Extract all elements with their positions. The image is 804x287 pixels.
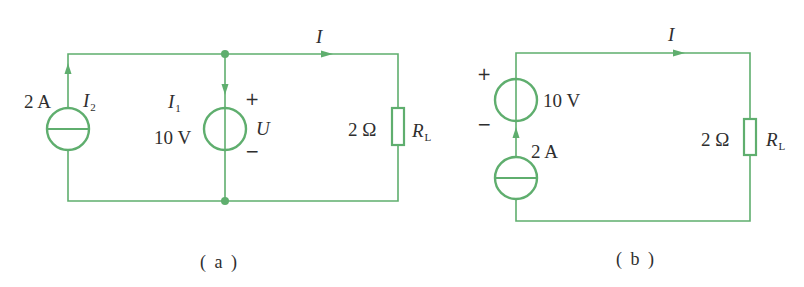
circuit-b-voltage-source-value: 10 V (543, 91, 580, 110)
circuit-b-current-source-value: 2 A (531, 142, 558, 161)
circuit-a-voltage-source-value: 10 V (154, 128, 191, 147)
circuit-a-top-wire (68, 54, 398, 108)
circuit-b-plus-sign: + (477, 66, 491, 83)
rl-symbol: R (766, 129, 778, 150)
i2-symbol: I (83, 90, 89, 111)
node-dot-icon (221, 197, 229, 205)
circuit-diagrams (0, 0, 804, 287)
circuit-b-bottom-wire (516, 155, 750, 221)
arrow-up-icon (65, 63, 72, 74)
i2-subscript: 2 (90, 101, 96, 113)
rl-subscript: L (425, 131, 432, 143)
circuit-a-current-label: I (316, 27, 322, 46)
circuit-b-resistor-value: 2 Ω (701, 130, 729, 149)
circuit-b-current-label: I (668, 25, 674, 44)
node-dot-icon (221, 50, 229, 58)
arrow-down-icon (222, 84, 229, 95)
resistor-icon (392, 108, 404, 145)
circuit-a-plus-sign: + (245, 91, 259, 108)
circuit-a-resistor-value: 2 Ω (348, 120, 376, 139)
circuit-b-caption: ( b ) (616, 250, 656, 268)
i1-symbol: I (168, 91, 174, 112)
arrow-right-icon (673, 50, 685, 57)
resistor-icon (744, 119, 756, 155)
arrow-right-icon (321, 51, 333, 58)
rl-symbol: R (412, 120, 424, 141)
circuit-a-resistor-name: RL (412, 121, 431, 143)
circuit-a-minus-sign: − (245, 143, 259, 160)
circuit-a-caption: ( a ) (200, 253, 239, 271)
circuit-a-i1-label: I1 (168, 92, 181, 114)
circuit-a-i2-label: I2 (83, 91, 96, 113)
circuit-a-current-source-value: 2 A (24, 92, 51, 111)
circuit-b-minus-sign: − (477, 116, 491, 133)
arrow-up-icon (513, 127, 520, 138)
circuit-a-voltage-label: U (256, 119, 270, 138)
circuit-a-markers (65, 50, 334, 205)
circuit-b-markers (513, 50, 686, 139)
i1-subscript: 1 (175, 102, 181, 114)
circuit-b-resistor-name: RL (766, 130, 785, 152)
rl-subscript: L (779, 140, 786, 152)
circuit-a-bottom-wire (68, 145, 398, 201)
